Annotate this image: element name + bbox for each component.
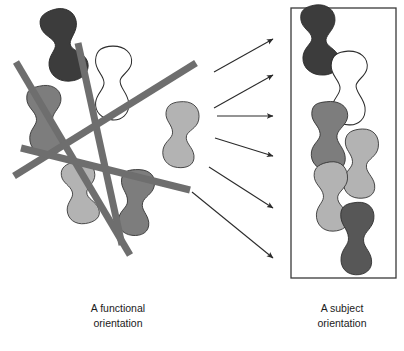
caption-left-line2: orientation xyxy=(93,317,142,329)
diagram-root: A functional orientation A subject orien… xyxy=(0,0,404,351)
subject-orientation-panel xyxy=(291,4,396,278)
diagram-canvas: A functional orientation A subject orien… xyxy=(0,0,404,351)
caption-right-line1: A subject xyxy=(321,302,364,314)
caption-left-line1: A functional xyxy=(91,302,145,314)
caption-right-line2: orientation xyxy=(317,317,366,329)
